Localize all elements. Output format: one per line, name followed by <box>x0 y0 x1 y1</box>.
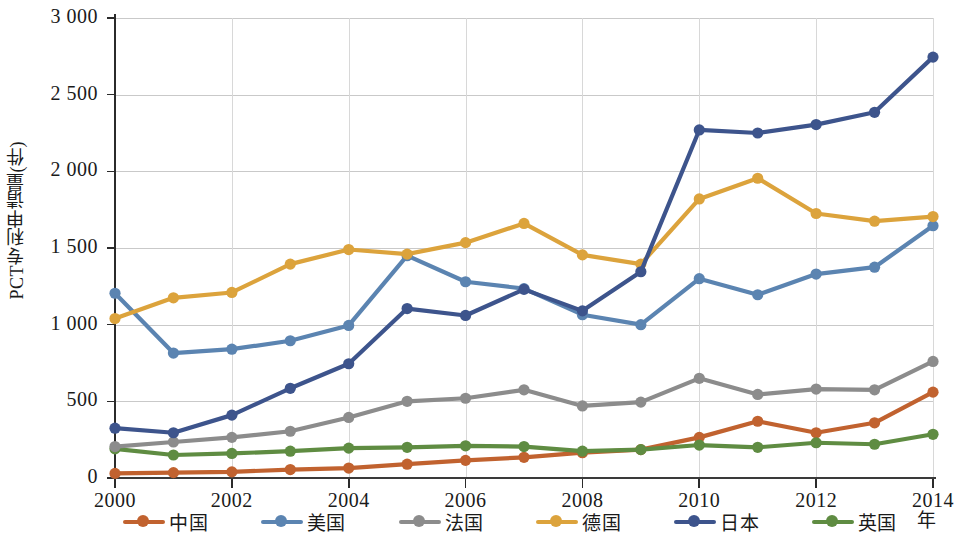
y-axis-tick <box>107 401 116 403</box>
legend-swatch-icon <box>674 514 716 528</box>
y-axis-tick-label: 2 000 <box>0 158 98 181</box>
x-axis-tick <box>932 479 934 488</box>
legend-item-4[interactable]: 日本 <box>674 508 759 535</box>
y-axis-tick-label-wrap: 500 <box>0 388 98 408</box>
y-axis-tick-label-wrap: 3 000 <box>0 5 98 25</box>
gridline-horizontal <box>115 325 933 326</box>
y-axis-tick-label-wrap: 2 500 <box>0 82 98 102</box>
y-axis-tick-label-wrap: 1 500 <box>0 235 98 255</box>
legend-label: 英国 <box>858 508 897 535</box>
legend-item-3[interactable]: 德国 <box>536 508 621 535</box>
legend: 中国美国法国德国日本英国 <box>115 507 905 535</box>
y-axis-tick-label: 2 500 <box>0 82 98 105</box>
x-axis-tick <box>698 479 700 488</box>
pct-patent-line-chart: PCT专利申请量(件) 3 0002 5002 0001 5001 000500… <box>0 0 958 538</box>
y-axis-tick <box>107 94 116 96</box>
legend-label: 美国 <box>307 508 346 535</box>
x-axis-tick <box>465 479 467 488</box>
gridline-horizontal <box>115 95 933 96</box>
legend-item-5[interactable]: 英国 <box>812 508 897 535</box>
y-axis-tick <box>107 17 116 19</box>
y-axis-tick-label-wrap: 1 000 <box>0 312 98 332</box>
legend-label: 法国 <box>445 508 484 535</box>
y-axis-tick-label: 1 500 <box>0 235 98 258</box>
y-axis-tick-label: 1 000 <box>0 312 98 335</box>
gridline-vertical <box>466 18 467 478</box>
y-axis-tick-label-wrap: 0 <box>0 465 98 485</box>
y-axis-tick-label: 3 000 <box>0 5 98 28</box>
y-axis-tick <box>107 247 116 249</box>
legend-item-0[interactable]: 中国 <box>123 508 208 535</box>
legend-label: 日本 <box>720 508 759 535</box>
gridline-horizontal <box>115 248 933 249</box>
gridline-vertical <box>349 18 350 478</box>
gridline-horizontal <box>115 18 933 19</box>
gridline-vertical <box>582 18 583 478</box>
legend-swatch-icon <box>261 514 303 528</box>
legend-label: 中国 <box>169 508 208 535</box>
x-axis-line <box>114 477 936 479</box>
x-axis-tick <box>114 479 116 488</box>
legend-swatch-icon <box>536 514 578 528</box>
y-axis-tick <box>107 171 116 173</box>
y-axis-tick-label: 500 <box>0 388 98 411</box>
plot-area <box>115 18 933 478</box>
gridline-horizontal <box>115 401 933 402</box>
gridline-vertical <box>699 18 700 478</box>
gridline-vertical <box>933 18 934 478</box>
legend-swatch-icon <box>812 514 854 528</box>
y-axis-tick-label-wrap: 2 000 <box>0 158 98 178</box>
x-axis-tick <box>815 479 817 488</box>
x-axis-tick <box>582 479 584 488</box>
gridline-vertical <box>232 18 233 478</box>
x-axis-tick <box>348 479 350 488</box>
y-axis-tick <box>107 324 116 326</box>
legend-swatch-icon <box>399 514 441 528</box>
gridline-vertical <box>816 18 817 478</box>
legend-item-2[interactable]: 法国 <box>399 508 484 535</box>
y-axis-tick-label: 0 <box>0 465 98 488</box>
legend-item-1[interactable]: 美国 <box>261 508 346 535</box>
x-axis-tick <box>231 479 233 488</box>
legend-label: 德国 <box>582 508 621 535</box>
x-axis-unit-label: 年 <box>917 505 936 532</box>
gridline-horizontal <box>115 171 933 172</box>
legend-swatch-icon <box>123 514 165 528</box>
